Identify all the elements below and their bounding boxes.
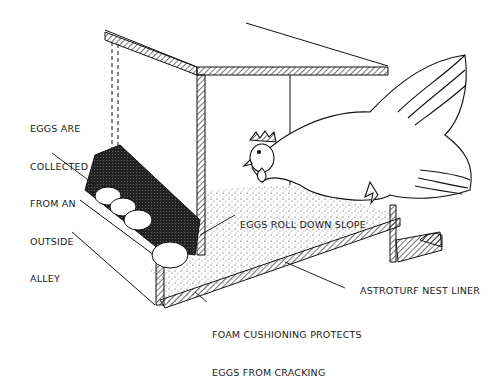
label-eggs-roll: EGGS ROLL DOWN SLOPE <box>240 219 366 232</box>
label-line: COLLECTED <box>30 161 88 174</box>
label-eggs-collected: EGGS ARE COLLECTED FROM AN OUTSIDE ALLEY <box>30 98 88 298</box>
egg-alley <box>85 145 200 255</box>
label-line: FROM AN <box>30 198 88 211</box>
hen <box>244 55 471 203</box>
label-line: ALLEY <box>30 273 88 286</box>
label-line: EGGS FROM CRACKING <box>212 367 362 380</box>
perch-rail <box>390 205 442 262</box>
roof <box>105 23 388 75</box>
label-line: FOAM CUSHIONING PROTECTS <box>212 329 362 342</box>
label-line: OUTSIDE <box>30 236 88 249</box>
label-line: EGGS ARE <box>30 123 88 136</box>
label-foam: FOAM CUSHIONING PROTECTS EGGS FROM CRACK… <box>212 304 362 380</box>
label-astroturf: ASTROTURF NEST LINER <box>360 285 480 298</box>
